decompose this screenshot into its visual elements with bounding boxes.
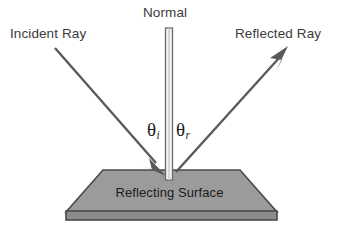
theta-i-subscript: i bbox=[156, 129, 160, 141]
reflecting-surface-label: Reflecting Surface bbox=[0, 185, 339, 200]
reflected-ray-label: Reflected Ray bbox=[235, 26, 321, 41]
theta-i-symbol: θ bbox=[147, 119, 156, 140]
angle-of-incidence-label: θi bbox=[147, 120, 160, 142]
incident-ray-line bbox=[55, 48, 156, 163]
theta-r-subscript: r bbox=[185, 129, 190, 141]
incident-ray-label: Incident Ray bbox=[10, 26, 86, 41]
reflection-diagram: Incident Ray Normal Reflected Ray Reflec… bbox=[0, 0, 339, 243]
normal-label: Normal bbox=[143, 5, 187, 20]
reflected-ray-arrowhead bbox=[270, 46, 288, 71]
reflected-ray-line bbox=[176, 58, 279, 172]
reflecting-surface-base bbox=[66, 211, 277, 220]
angle-of-reflection-label: θr bbox=[176, 120, 190, 142]
theta-r-symbol: θ bbox=[176, 119, 185, 140]
